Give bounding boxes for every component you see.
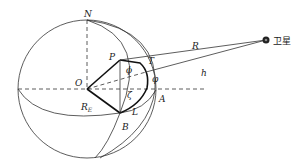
label-l: L — [131, 107, 138, 117]
label-p: P — [108, 52, 116, 62]
label-a: A — [158, 94, 166, 104]
label-height-h: h — [201, 68, 207, 78]
ground-track-curve — [120, 60, 148, 113]
label-range-r: R — [191, 41, 199, 51]
satellite-icon-core — [265, 39, 268, 42]
label-satellite: 卫星 — [273, 36, 291, 46]
label-earth-radius: RE — [80, 102, 93, 113]
label-earth-radius-sub: E — [87, 106, 93, 113]
label-t: T — [148, 56, 155, 66]
label-angle-phi: φ — [152, 74, 159, 84]
label-angle-phi-upper: ϕ — [126, 65, 132, 75]
label-center-o: O — [75, 78, 83, 88]
label-angle-zeta: ζ — [127, 90, 133, 100]
satellite-geometry-diagram: N O P T ϕ φ ζ A L B R h RE 卫星 — [0, 0, 305, 164]
label-north: N — [83, 9, 93, 19]
label-b: B — [121, 122, 129, 132]
